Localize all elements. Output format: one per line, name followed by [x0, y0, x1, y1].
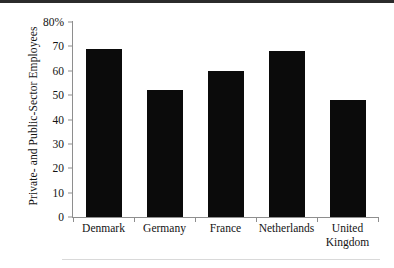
bar	[330, 100, 366, 217]
bar-chart-figure: Private- and Public-Sector Employees 010…	[0, 0, 394, 268]
x-category-label: UnitedKingdom	[311, 222, 384, 249]
y-tick-label: 60	[53, 65, 65, 77]
x-category-label-line: Kingdom	[311, 236, 384, 250]
y-tick-label: 20	[53, 162, 65, 174]
x-category-label-line: United	[311, 222, 384, 236]
bar	[269, 51, 305, 217]
y-tick-mark	[68, 119, 73, 120]
bar	[147, 90, 183, 217]
y-tick-label: 30	[53, 138, 65, 150]
bar	[86, 49, 122, 217]
y-tick-mark	[68, 95, 73, 96]
plot-area: 01020304050607080%	[73, 22, 378, 217]
y-tick-label: 0	[58, 211, 64, 223]
y-tick-label: 40	[53, 114, 65, 126]
y-tick-mark	[68, 143, 73, 144]
y-tick-mark	[68, 22, 73, 23]
y-axis-title: Private- and Public-Sector Employees	[27, 11, 39, 221]
y-tick-mark	[68, 70, 73, 71]
figure-bottom-rule	[62, 259, 380, 260]
y-tick-mark	[68, 168, 73, 169]
y-tick-label: 10	[53, 187, 65, 199]
y-tick-label: 50	[53, 89, 65, 101]
y-tick-label: 80%	[43, 16, 64, 28]
x-axis-line	[72, 217, 379, 218]
y-tick-label: 70	[53, 40, 65, 52]
y-tick-mark	[68, 192, 73, 193]
y-tick-mark	[68, 46, 73, 47]
bar	[208, 71, 244, 217]
